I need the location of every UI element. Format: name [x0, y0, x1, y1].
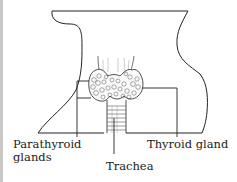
parathyroid-leader-upper [77, 81, 89, 137]
thyroid-leader [142, 88, 177, 137]
trachea [107, 100, 126, 133]
trachea-label: Trachea [106, 160, 154, 173]
right-neck-contour [177, 11, 208, 133]
thyroid-gland [89, 69, 143, 101]
parathyroid-label: Parathyroid glands [13, 138, 81, 164]
neck-outline [38, 11, 207, 133]
thyroid-label: Thyroid gland [147, 138, 228, 151]
parathyroid-label-line2: glands [13, 151, 81, 164]
left-neck-contour [38, 11, 82, 133]
